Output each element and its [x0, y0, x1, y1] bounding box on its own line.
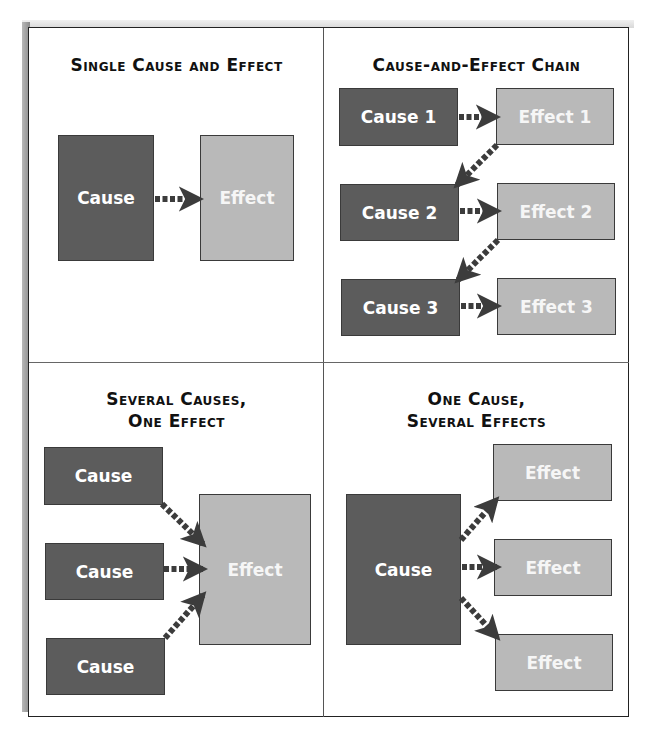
- panel-title-line: Cause-and-Effect Chain: [324, 54, 629, 76]
- cause-box: Cause 3: [341, 279, 460, 336]
- cause-box: Cause: [46, 638, 165, 695]
- horizontal-divider: [29, 362, 629, 363]
- box-label: Effect: [227, 560, 282, 580]
- box-label: Effect: [525, 463, 580, 483]
- box-label: Effect 3: [520, 297, 593, 317]
- vertical-divider: [323, 28, 324, 717]
- panel-title: One Cause, Several Effects: [324, 388, 629, 432]
- panel-title: Cause-and-Effect Chain: [324, 54, 629, 76]
- panel-title: Single Cause and Effect: [30, 54, 323, 76]
- box-label: Cause 1: [361, 107, 436, 127]
- box-label: Effect 1: [519, 107, 592, 127]
- box-label: Effect: [525, 558, 580, 578]
- box-label: Effect: [219, 188, 274, 208]
- effect-box: Effect: [495, 634, 613, 691]
- panel-title-line: Several Causes,: [30, 388, 323, 410]
- panel-title: Several Causes, One Effect: [30, 388, 323, 432]
- cause-box: Cause: [58, 135, 154, 261]
- panel-title-line: Several Effects: [324, 410, 629, 432]
- box-label: Cause: [76, 562, 134, 582]
- cause-box: Cause: [346, 494, 461, 645]
- panel-title-line: One Effect: [30, 410, 323, 432]
- box-label: Cause: [77, 657, 135, 677]
- effect-box: Effect: [494, 539, 612, 596]
- cause-box: Cause 1: [339, 88, 458, 146]
- box-label: Cause: [75, 466, 133, 486]
- effect-box: Effect: [200, 135, 294, 261]
- box-label: Cause: [77, 188, 135, 208]
- effect-box: Effect: [199, 494, 311, 645]
- effect-box: Effect 1: [496, 88, 614, 145]
- effect-box: Effect 2: [497, 183, 615, 240]
- cause-box: Cause: [44, 447, 163, 505]
- box-label: Effect: [526, 653, 581, 673]
- box-label: Cause 2: [362, 203, 437, 223]
- effect-box: Effect 3: [497, 278, 616, 335]
- panel-title-line: Single Cause and Effect: [30, 54, 323, 76]
- panel-title-line: One Cause,: [324, 388, 629, 410]
- box-label: Cause: [375, 560, 433, 580]
- cause-box: Cause 2: [340, 184, 459, 241]
- effect-box: Effect: [493, 444, 612, 501]
- box-label: Cause 3: [363, 298, 438, 318]
- box-label: Effect 2: [520, 202, 593, 222]
- cause-box: Cause: [45, 543, 164, 600]
